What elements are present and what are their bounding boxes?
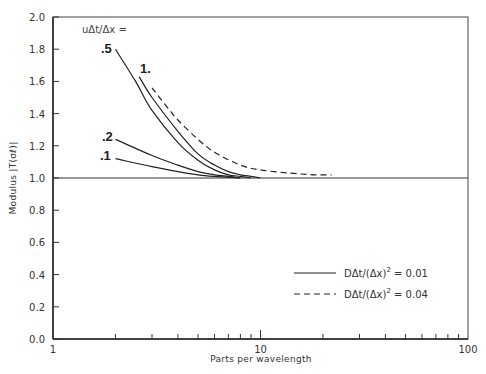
axis-ticks: 0.00.20.40.60.81.01.21.41.61.82.0110100 [29, 12, 477, 355]
legend-dashed-label: DΔt/(Δx)2 = 0.04 [344, 287, 428, 300]
y-tick-label: 0.6 [29, 237, 45, 248]
curve-label: 1. [140, 61, 151, 76]
y-tick-label: 2.0 [29, 12, 45, 23]
curve-label: .1 [100, 148, 111, 163]
curve-dashed-1p [152, 88, 332, 175]
param-label: uΔt/Δx = [82, 24, 127, 35]
y-tick-label: 0.0 [29, 334, 45, 345]
labels: .51..2.1 [100, 41, 151, 163]
y-tick-label: 0.2 [29, 302, 45, 313]
curve-p5 [116, 49, 252, 178]
y-axis-title: Modulus |T(σℓ)| [8, 142, 18, 215]
y-tick-label: 0.4 [29, 270, 45, 281]
y-tick-label: 0.8 [29, 205, 45, 216]
y-tick-label: 1.0 [29, 173, 45, 184]
x-tick-label: 1 [50, 344, 56, 355]
y-tick-label: 1.8 [29, 44, 45, 55]
curve-label: .5 [101, 41, 112, 56]
y-tick-label: 1.6 [29, 76, 45, 87]
y-tick-label: 1.2 [29, 141, 45, 152]
legend: DΔt/(Δx)2 = 0.01 DΔt/(Δx)2 = 0.04 [294, 266, 428, 300]
y-tick-label: 1.4 [29, 109, 45, 120]
curve-label: .2 [102, 129, 113, 144]
x-tick-label: 100 [458, 344, 477, 355]
curve-1p [139, 77, 260, 178]
legend-solid-label: DΔt/(Δx)2 = 0.01 [344, 266, 428, 279]
chart: 0.00.20.40.60.81.01.21.41.61.82.0110100 … [0, 0, 486, 374]
x-axis-title: Parts per wavelength [210, 354, 312, 364]
